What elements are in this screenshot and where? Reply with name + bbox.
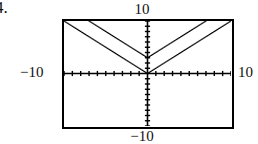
window-xmin-label: −10	[20, 64, 43, 80]
graphing-calculator-figure: 4. 10 −10 10 −10	[0, 0, 258, 144]
window-ymin-label: −10	[0, 128, 258, 144]
trace-pixel	[205, 21, 206, 22]
trace-pixel	[230, 21, 231, 22]
calculator-viewport	[62, 19, 234, 129]
window-ymax-label: 10	[0, 1, 258, 17]
plot-canvas	[64, 21, 231, 126]
window-xmax-label: 10	[238, 64, 253, 80]
